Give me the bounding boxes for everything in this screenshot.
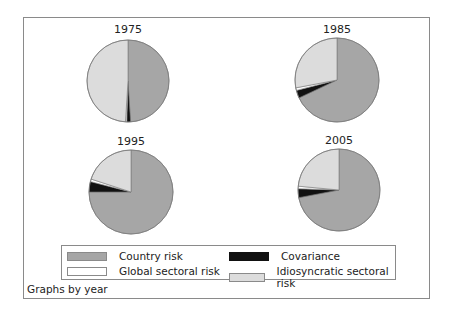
graphs-by-note: Graphs by year	[27, 283, 108, 295]
swatch-covariance	[229, 252, 269, 261]
swatch-idiosyncratic-sectoral-risk	[229, 273, 265, 282]
legend-label: Idiosyncratic sectoral risk	[277, 265, 395, 289]
swatch-global-sectoral-risk	[67, 267, 107, 276]
legend: Country risk Covariance Global sectoral …	[61, 245, 396, 280]
legend-label: Covariance	[281, 250, 340, 262]
swatch-country-risk	[67, 252, 107, 261]
legend-item-covariance: Covariance	[229, 250, 340, 262]
legend-item-idiosyncratic-sectoral-risk: Idiosyncratic sectoral risk	[229, 265, 395, 289]
legend-item-country-risk: Country risk	[67, 250, 183, 262]
legend-label: Country risk	[119, 250, 183, 262]
legend-item-global-sectoral-risk: Global sectoral risk	[67, 265, 220, 277]
pie-slice	[298, 149, 339, 190]
legend-label: Global sectoral risk	[119, 265, 220, 277]
